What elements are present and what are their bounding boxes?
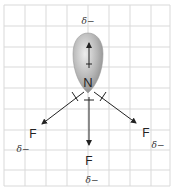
fluorine-bottom-label: F [85,154,92,168]
arrow-to-left-f [42,92,84,124]
fluorine-right-partial-charge: δ− [152,140,165,150]
nf3-dipole-diagram: N δ− F δ− F δ− F δ− [0,0,173,194]
nitrogen-label: N [83,75,92,90]
bond-dipole-arrows [42,92,136,145]
fluorine-left-partial-charge: δ− [17,144,30,154]
lone-pair-partial-charge: δ− [82,16,95,26]
fluorine-bottom-partial-charge: δ− [86,175,99,185]
fluorine-right-label: F [142,126,149,140]
fluorine-left-label: F [29,127,36,141]
